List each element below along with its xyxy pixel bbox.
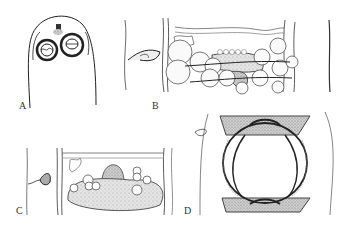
- panel-label-c: C: [16, 206, 23, 216]
- panel-d-drawing: [195, 112, 333, 215]
- panel-c-drawing: [27, 148, 173, 215]
- panel-b-drawing: [125, 18, 330, 94]
- scientific-figure: A B C D: [0, 0, 351, 229]
- panel-label-b: B: [152, 101, 159, 111]
- panel-label-a: A: [19, 101, 26, 111]
- panel-a-drawing: [28, 16, 96, 108]
- figure-drawings: [0, 0, 351, 229]
- panel-label-d: D: [184, 206, 191, 216]
